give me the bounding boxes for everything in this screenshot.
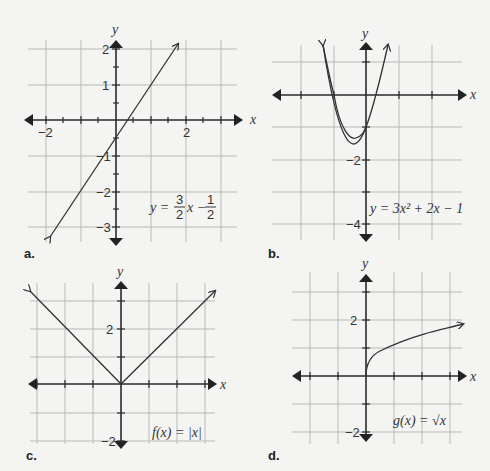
- panel-a-y-arrow-up-icon: [109, 40, 123, 48]
- panel-d-y-arrow-up-icon: [359, 274, 373, 282]
- panel-b-y-label: y: [360, 26, 369, 41]
- panel-a-x-arrow-left-icon: [24, 114, 33, 126]
- panel-c-ytick-m2: −2: [101, 434, 116, 449]
- panel-d-x-arrow-right-icon: [458, 370, 467, 382]
- panel-a-graph: y x −2 2 2 1 −1 −2 −3 y = 3 2 x − 1 2 a.: [24, 22, 257, 261]
- panel-b-x-arrow-right-icon: [458, 89, 467, 101]
- panel-b-x-label: x: [469, 87, 477, 102]
- panel-b-ytick-m2: −2: [346, 153, 361, 168]
- panel-b-ytick-m4: −4: [346, 217, 361, 232]
- svg-text:2: 2: [207, 207, 214, 222]
- panel-d-equation: g(x) = √x: [393, 413, 447, 429]
- panel-d-ytick-2: 2: [350, 313, 357, 328]
- panel-d-y-label: y: [360, 256, 369, 271]
- panel-d-label: d.: [268, 448, 280, 463]
- panel-d-y-arrow-down-icon: [359, 434, 373, 442]
- panel-a-ytick-m1: −1: [96, 149, 111, 164]
- panel-b-equation: y = 3x² + 2x − 1: [368, 201, 463, 216]
- panel-a-ytick-1: 1: [102, 78, 109, 93]
- panel-a-x-arrow-right-icon: [234, 114, 243, 126]
- svg-text:x −: x −: [186, 200, 206, 215]
- panel-a-y-label: y: [110, 22, 119, 37]
- panel-c-equation: f(x) = |x|: [152, 425, 202, 441]
- panel-c-abs-curve: [30, 291, 215, 384]
- panel-b-x-arrow-left-icon: [272, 89, 281, 101]
- svg-text:y =: y =: [148, 200, 169, 215]
- panel-d-graph: y x 2 −2 g(x) = √x d.: [268, 256, 477, 463]
- panel-d-sqrt-curve: [366, 324, 463, 376]
- panel-c-x-arrow-right-icon: [208, 378, 217, 390]
- panel-a-y-arrow-down-icon: [109, 238, 123, 246]
- panel-c-x-arrow-left-icon: [28, 378, 37, 390]
- panel-a-label: a.: [24, 246, 35, 261]
- panel-b-graph: y x −2 −4 y = 3x² + 2x − 1 b.: [268, 26, 477, 261]
- panel-a-equation: y = 3 2 x − 1 2: [148, 192, 216, 222]
- panel-c-y-arrow-up-icon: [114, 281, 128, 289]
- panel-c-label: c.: [26, 448, 37, 463]
- panel-d-x-label: x: [469, 369, 477, 384]
- panel-b-label: b.: [268, 246, 280, 261]
- svg-text:1: 1: [207, 192, 214, 207]
- panel-b-y-arrow-up-icon: [359, 42, 373, 50]
- panel-c-x-label: x: [219, 377, 227, 392]
- panel-d-ticks: [310, 292, 450, 432]
- panel-a-xtick-m2: −2: [38, 125, 53, 140]
- panel-c-grid: [30, 283, 215, 444]
- panel-d-x-arrow-left-icon: [292, 370, 301, 382]
- panel-c-y-arrow-down-icon: [114, 441, 128, 449]
- panel-a-ytick-2: 2: [102, 42, 109, 57]
- panel-a-xtick-2: 2: [183, 125, 190, 140]
- function-graphs: y x −2 2 2 1 −1 −2 −3 y = 3 2 x − 1 2 a.: [0, 0, 490, 471]
- svg-text:2: 2: [176, 207, 183, 222]
- panel-c-ytick-2: 2: [106, 322, 113, 337]
- panel-c-y-label: y: [115, 264, 124, 279]
- panel-b-y-arrow-down-icon: [359, 234, 373, 242]
- panel-a-ytick-m3: −3: [96, 220, 111, 235]
- panel-a-x-label: x: [249, 112, 257, 127]
- panel-c-graph: y x 2 −2 f(x) = |x| c.: [26, 264, 227, 463]
- panel-d-ytick-m2: −2: [345, 425, 360, 440]
- panel-a-ytick-m2: −2: [96, 185, 111, 200]
- svg-text:3: 3: [176, 192, 183, 207]
